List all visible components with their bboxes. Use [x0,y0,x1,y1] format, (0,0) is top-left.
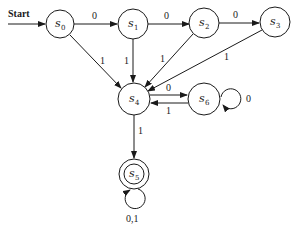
edge-label: 1 [100,55,105,66]
svg-text:3: 3 [276,22,280,30]
state-s3: s 3 [260,7,290,37]
start-arrow: Start [8,8,45,24]
edge-s2-s4: 1 [145,34,193,87]
edge-s6-s4: 1 [151,103,188,116]
edge-s1-s2: 0 [148,10,189,24]
edge-s4-s5: 1 [134,115,143,158]
svg-text:6: 6 [205,99,210,107]
edge-label: 1 [160,53,165,64]
state-s2: s 2 [189,8,219,38]
state-s6: s 6 [188,83,220,115]
edge-s0-s4: 1 [70,35,121,88]
edge-s1-s4: 1 [124,39,133,82]
state-s4: s 4 [118,83,150,115]
edge-label: 0 [246,93,251,104]
svg-text:1: 1 [134,24,138,32]
edge-s6-s6-loop: 0 [221,89,251,109]
state-s1: s 1 [118,9,148,39]
edge-label: 0 [92,10,97,21]
svg-text:4: 4 [135,99,140,107]
state-diagram: Start 0 0 0 1 1 1 1 0 1 0 1 [0,0,292,228]
edge-s4-s6: 0 [150,82,187,95]
edge-label: 0 [233,9,238,20]
edge-s0-s1: 0 [74,10,117,24]
edge-label: 0 [164,10,169,21]
svg-text:2: 2 [205,23,209,31]
edge-label: 1 [166,105,171,116]
edge-label: 1 [138,125,143,136]
state-s5-accepting: s 5 [119,159,149,189]
edge-s2-s3: 0 [219,9,259,23]
edge-label: 1 [124,55,129,66]
state-s0: s 0 [46,10,74,38]
edge-label: 1 [224,51,229,62]
svg-text:5: 5 [135,174,139,182]
edge-s5-s5-loop: 0,1 [125,189,145,224]
start-label: Start [8,8,30,19]
svg-text:0: 0 [61,24,65,32]
edge-label: 0,1 [126,213,139,224]
edge-label: 0 [166,82,171,93]
